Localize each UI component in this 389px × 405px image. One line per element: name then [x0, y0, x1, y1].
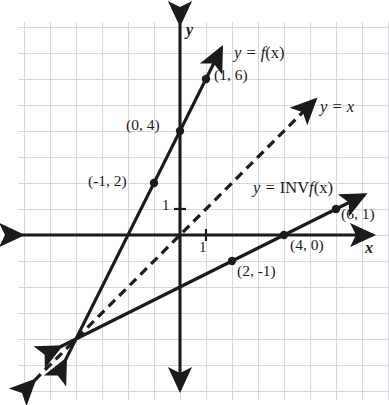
- coordinate-plane-svg: [0, 0, 389, 405]
- point-label-2-neg1: (2, -1): [237, 263, 276, 279]
- point-label-4-0: (4, 0): [290, 237, 324, 253]
- data-point: [228, 257, 236, 265]
- curve-label-identity-body: x: [347, 97, 354, 116]
- curve-label-identity-prefix: y =: [320, 97, 347, 116]
- curves-group: [34, 48, 364, 381]
- data-point: [280, 231, 288, 239]
- point-label-neg1-2: (-1, 2): [88, 173, 127, 189]
- y-axis-tick-label: 1: [162, 198, 170, 213]
- curve-label-identity: y = x: [320, 99, 354, 116]
- curve-label-f: y = f(x): [234, 45, 285, 62]
- curve-label-inverse-suffix: (x): [314, 178, 333, 197]
- point-label-1-6: (1, 6): [214, 67, 248, 83]
- data-point: [150, 179, 158, 187]
- curve-label-inverse-upright: INV: [280, 178, 309, 197]
- point-label-6-1: (6, 1): [341, 206, 375, 222]
- data-point: [332, 205, 340, 213]
- curve-f-inverse: [60, 195, 364, 347]
- graph-figure: y = f(x) y = x y = INVf(x) (1, 6) (0, 4)…: [0, 0, 389, 405]
- point-label-0-4: (0, 4): [126, 117, 160, 133]
- x-axis-tick-label: 1: [199, 240, 207, 255]
- y-axis-label: y: [186, 22, 193, 38]
- curve-label-inverse-prefix: y =: [253, 178, 280, 197]
- curve-label-f-suffix: (x): [265, 43, 284, 62]
- data-point: [202, 75, 210, 83]
- curve-label-f-inverse: y = INVf(x): [253, 180, 333, 197]
- x-axis-label: x: [365, 240, 373, 256]
- data-point: [176, 127, 184, 135]
- curve-label-f-prefix: y =: [234, 43, 261, 62]
